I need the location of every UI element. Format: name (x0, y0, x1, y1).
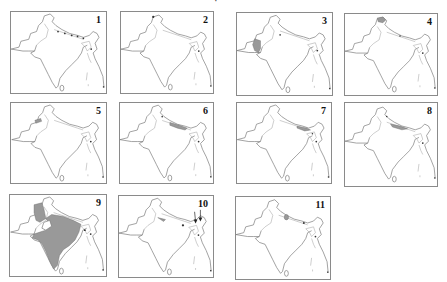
panel-number: 11 (316, 199, 325, 210)
panel-number: 4 (427, 16, 432, 27)
south-asia-map (121, 12, 213, 93)
panel-number: 9 (96, 197, 101, 208)
map-panel-9: 9 (9, 194, 107, 277)
map-panel-7: 7 (236, 102, 332, 184)
panel-number: 3 (322, 15, 327, 26)
south-asia-map (237, 13, 332, 95)
map-panel-11: 11 (235, 196, 331, 280)
south-asia-map (11, 12, 106, 93)
panel-number: 5 (96, 105, 101, 116)
map-panel-10: 10 (118, 195, 214, 278)
figure-title-partial: · (214, 0, 218, 6)
panel-number: 6 (203, 105, 208, 116)
south-asia-map (237, 103, 331, 183)
map-panel-1: 1 (10, 11, 107, 94)
panel-number: 10 (198, 198, 208, 209)
panel-number: 8 (427, 105, 432, 116)
panel-number: 1 (96, 14, 101, 25)
panel-number: 7 (321, 105, 326, 116)
south-asia-map (345, 14, 437, 95)
map-panel-2: 2 (120, 11, 214, 94)
map-panel-4: 4 (344, 13, 438, 96)
map-panel-8: 8 (344, 102, 438, 187)
south-asia-map (11, 103, 106, 183)
south-asia-map (10, 195, 106, 276)
south-asia-map (345, 103, 437, 186)
map-panel-3: 3 (236, 12, 333, 96)
map-panel-6: 6 (119, 102, 214, 184)
panel-number: 2 (203, 14, 208, 25)
map-panel-5: 5 (10, 102, 107, 184)
south-asia-map (120, 103, 213, 183)
